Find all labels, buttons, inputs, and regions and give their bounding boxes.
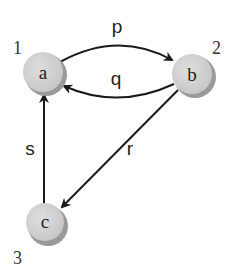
node-a-number: 1	[13, 38, 22, 58]
edge-q-label: q	[111, 68, 122, 89]
graph-canvas: a b c 1 2 3 p q r s	[0, 0, 237, 273]
node-b-label: b	[187, 64, 197, 85]
edge-s-label: s	[25, 138, 35, 159]
edge-r-label: r	[127, 138, 134, 159]
edge-p	[60, 45, 172, 62]
node-c-number: 3	[13, 248, 22, 268]
node-c-label: c	[41, 211, 49, 232]
edge-p-label: p	[112, 16, 123, 37]
edge-r	[62, 90, 178, 207]
node-a-label: a	[39, 62, 48, 83]
node-b-number: 2	[212, 38, 221, 58]
